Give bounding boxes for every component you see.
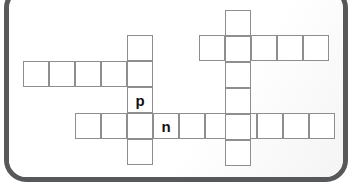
- crossword-cell-letter-p[interactable]: p: [127, 87, 153, 113]
- crossword-cell-empty[interactable]: [225, 10, 251, 36]
- crossword-cell-empty[interactable]: [257, 113, 283, 139]
- crossword-cell-letter-n[interactable]: n: [153, 113, 179, 139]
- crossword-cell-empty[interactable]: [101, 61, 127, 87]
- crossword-grid: np: [0, 0, 355, 193]
- crossword-cell-empty[interactable]: [75, 113, 101, 139]
- crossword-cell-empty[interactable]: [225, 88, 251, 114]
- crossword-cell-empty[interactable]: [225, 62, 251, 88]
- crossword-cell-empty[interactable]: [127, 61, 153, 87]
- crossword-cell-empty[interactable]: [199, 35, 225, 61]
- crossword-cell-empty[interactable]: [225, 140, 251, 166]
- crossword-cell-empty[interactable]: [225, 36, 251, 62]
- crossword-cell-empty[interactable]: [277, 35, 303, 61]
- crossword-cell-empty[interactable]: [127, 113, 153, 139]
- crossword-cell-empty[interactable]: [251, 35, 277, 61]
- crossword-cell-empty[interactable]: [283, 113, 309, 139]
- crossword-cell-empty[interactable]: [309, 113, 335, 139]
- crossword-cell-empty[interactable]: [179, 113, 205, 139]
- crossword-cell-empty[interactable]: [303, 35, 329, 61]
- crossword-cell-empty[interactable]: [127, 35, 153, 61]
- crossword-cell-empty[interactable]: [49, 61, 75, 87]
- crossword-puzzle: np: [0, 0, 355, 193]
- crossword-cell-empty[interactable]: [75, 61, 101, 87]
- crossword-cell-empty[interactable]: [23, 61, 49, 87]
- crossword-cell-empty[interactable]: [225, 114, 251, 140]
- crossword-cell-empty[interactable]: [127, 139, 153, 165]
- crossword-cell-empty[interactable]: [101, 113, 127, 139]
